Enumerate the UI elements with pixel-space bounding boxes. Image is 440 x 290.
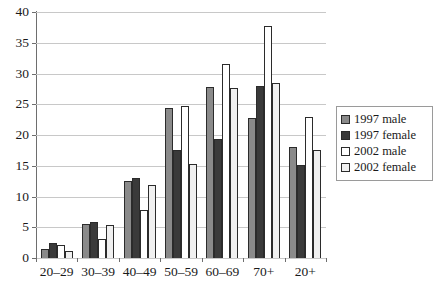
- bar: [140, 210, 148, 258]
- x-axis-tick-label: 40–49: [123, 265, 157, 279]
- x-axis-tick: [77, 258, 78, 262]
- y-axis-tick-label: 30: [16, 67, 30, 81]
- legend-swatch-icon: [341, 147, 350, 156]
- x-axis-tick: [202, 258, 203, 262]
- y-axis-tick-label: 15: [16, 159, 30, 173]
- bar-group: [202, 12, 243, 258]
- x-axis-tick: [119, 258, 120, 262]
- legend-label: 1997 male: [354, 113, 406, 126]
- bar: [206, 87, 214, 258]
- x-axis-tick-label: 70+: [253, 265, 274, 279]
- bar: [313, 150, 321, 258]
- x-axis-tick: [285, 258, 286, 262]
- bar: [305, 117, 313, 258]
- bar: [189, 164, 197, 258]
- bar: [264, 26, 272, 258]
- bar: [181, 106, 189, 258]
- bar-group: [285, 12, 326, 258]
- legend-item-1997-female: 1997 female: [341, 127, 428, 143]
- bar: [57, 245, 65, 258]
- bar: [65, 251, 73, 258]
- bar: [272, 83, 280, 258]
- bar: [214, 139, 222, 258]
- bar: [173, 150, 181, 258]
- bar: [106, 225, 114, 258]
- legend-item-2002-female: 2002 female: [341, 159, 428, 175]
- y-axis-tick-label: 10: [16, 190, 30, 204]
- x-axis-tick: [36, 258, 37, 262]
- y-axis-tick-label: 40: [16, 5, 30, 19]
- bar-group: [36, 12, 77, 258]
- bar-chart: 0510152025303540 20–2930–3940–4950–5960–…: [0, 0, 440, 290]
- bar-group: [160, 12, 201, 258]
- bar: [98, 239, 106, 258]
- bar: [124, 181, 132, 258]
- legend-label: 2002 female: [354, 161, 416, 174]
- x-axis-tick-label: 20–29: [40, 265, 74, 279]
- y-axis-tick-label: 5: [22, 221, 29, 235]
- legend-swatch-icon: [341, 131, 350, 140]
- bar: [289, 147, 297, 258]
- y-axis-tick-label: 0: [22, 251, 29, 265]
- legend-label: 2002 male: [354, 145, 406, 158]
- legend-item-1997-male: 1997 male: [341, 111, 428, 127]
- y-axis-tick-label: 25: [16, 98, 30, 112]
- x-axis-tick-label: 50–59: [164, 265, 198, 279]
- bar: [132, 178, 140, 258]
- bar: [256, 86, 264, 258]
- gridline: [36, 258, 326, 259]
- bar: [165, 108, 173, 258]
- bar: [82, 224, 90, 258]
- bar-group: [77, 12, 118, 258]
- legend-label: 1997 female: [354, 129, 416, 142]
- x-axis-tick-label: 30–39: [81, 265, 115, 279]
- bar: [148, 185, 156, 258]
- legend-swatch-icon: [341, 163, 350, 172]
- bar: [297, 165, 305, 258]
- bar: [49, 243, 57, 258]
- legend-item-2002-male: 2002 male: [341, 143, 428, 159]
- bar: [248, 118, 256, 258]
- bar: [222, 64, 230, 258]
- plot-area: 0510152025303540: [36, 12, 326, 258]
- y-axis-tick-label: 35: [16, 36, 30, 50]
- bar-group: [119, 12, 160, 258]
- chart-legend: 1997 male 1997 female 2002 male 2002 fem…: [336, 106, 433, 181]
- bar: [41, 249, 49, 258]
- bar-groups: [36, 12, 326, 258]
- bar: [90, 222, 98, 258]
- x-axis-tick: [243, 258, 244, 262]
- x-axis-tick-label: 20+: [295, 265, 316, 279]
- x-axis-tick-label: 60–69: [206, 265, 240, 279]
- x-axis-tick: [326, 258, 327, 262]
- legend-swatch-icon: [341, 115, 350, 124]
- y-axis-tick-label: 20: [16, 128, 30, 142]
- x-axis-tick: [160, 258, 161, 262]
- bar-group: [243, 12, 284, 258]
- bar: [230, 88, 238, 258]
